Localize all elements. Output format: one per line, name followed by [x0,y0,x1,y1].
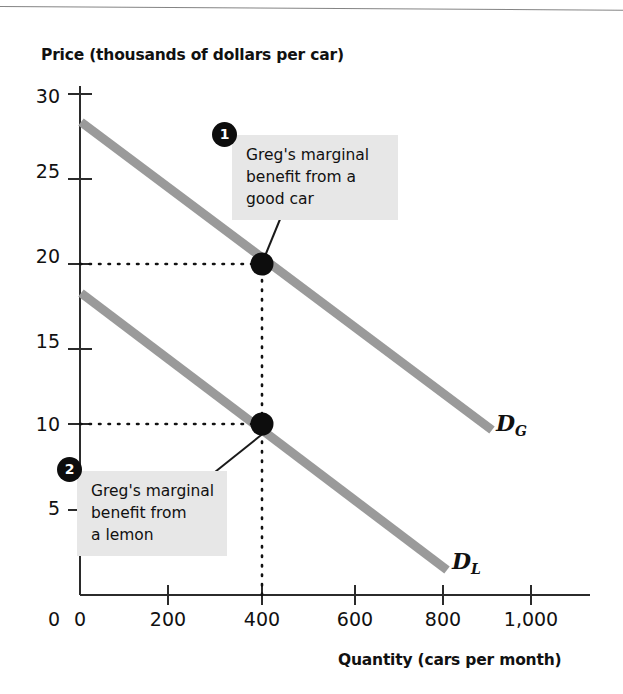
curve-label-dl-subscript: L [471,561,481,577]
callout-2-line-1: Greg's marginal [91,480,215,502]
data-point-good-car [251,253,274,276]
demand-curve-figure: Price (thousands of dollars per car) Qua… [0,0,623,694]
leader-line-callout-2 [215,432,265,472]
data-point-lemon [251,413,274,436]
callout-1-badge: 1 [212,122,237,147]
curve-label-dl: DL [452,548,481,577]
callout-good-car: Greg's marginal benefit from a good car [232,135,398,220]
curve-label-dg-subscript: G [515,423,527,439]
curve-label-dg: DG [496,410,527,439]
callout-1-line-2: benefit from a [246,166,386,188]
callout-2-line-3: a lemon [91,524,215,546]
callout-2-line-2: benefit from [91,502,215,524]
callout-lemon: Greg's marginal benefit from a lemon [77,471,227,556]
callout-1-line-3: good car [246,188,386,210]
callout-1-line-1: Greg's marginal [246,144,386,166]
callout-2-badge: 2 [57,457,82,482]
plot-area [0,0,623,694]
curve-label-dg-letter: D [496,410,515,436]
curve-label-dl-letter: D [452,548,471,574]
